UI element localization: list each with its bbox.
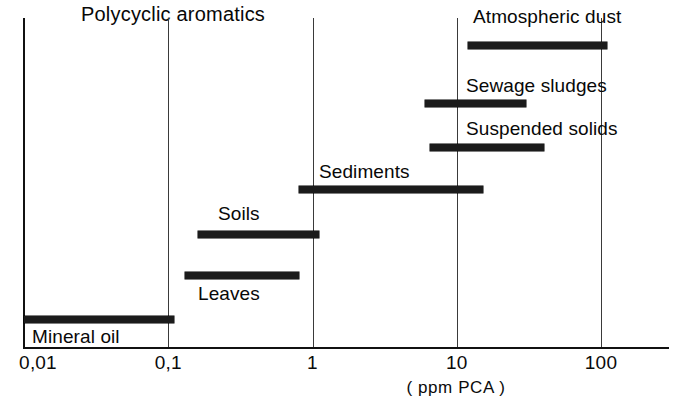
range-bar — [24, 316, 174, 323]
bar-label: Soils — [218, 203, 260, 225]
chart-title: Polycyclic aromatics — [81, 3, 265, 26]
x-tick-label: 10 — [446, 352, 468, 374]
gridline-100 — [601, 18, 602, 348]
chart-figure: Polycyclic aromatics Atmospheric dustSew… — [0, 0, 677, 405]
bar-label: Atmospheric dust — [473, 6, 621, 28]
x-tick-label: 100 — [585, 352, 617, 374]
gridline-10 — [457, 18, 458, 348]
range-bar — [185, 272, 299, 279]
bar-label: Suspended solids — [466, 118, 618, 140]
bar-label: Mineral oil — [32, 326, 120, 348]
x-tick-label: 0,1 — [155, 352, 182, 374]
gridline-1 — [313, 18, 314, 348]
bar-label: Sewage sludges — [466, 75, 607, 97]
bar-label: Sediments — [319, 161, 410, 183]
range-bar — [425, 100, 526, 107]
x-axis-line — [24, 347, 669, 349]
range-bar — [198, 231, 319, 238]
x-axis-title: ( ppm PCA ) — [406, 378, 505, 398]
x-tick-label: 0,01 — [19, 352, 57, 374]
range-bar — [299, 186, 483, 193]
range-bar — [430, 144, 544, 151]
x-tick-label: 1 — [307, 352, 318, 374]
gridline-01 — [168, 18, 169, 348]
range-bar — [468, 42, 607, 49]
y-axis-line — [23, 18, 25, 349]
bar-label: Leaves — [198, 283, 260, 305]
